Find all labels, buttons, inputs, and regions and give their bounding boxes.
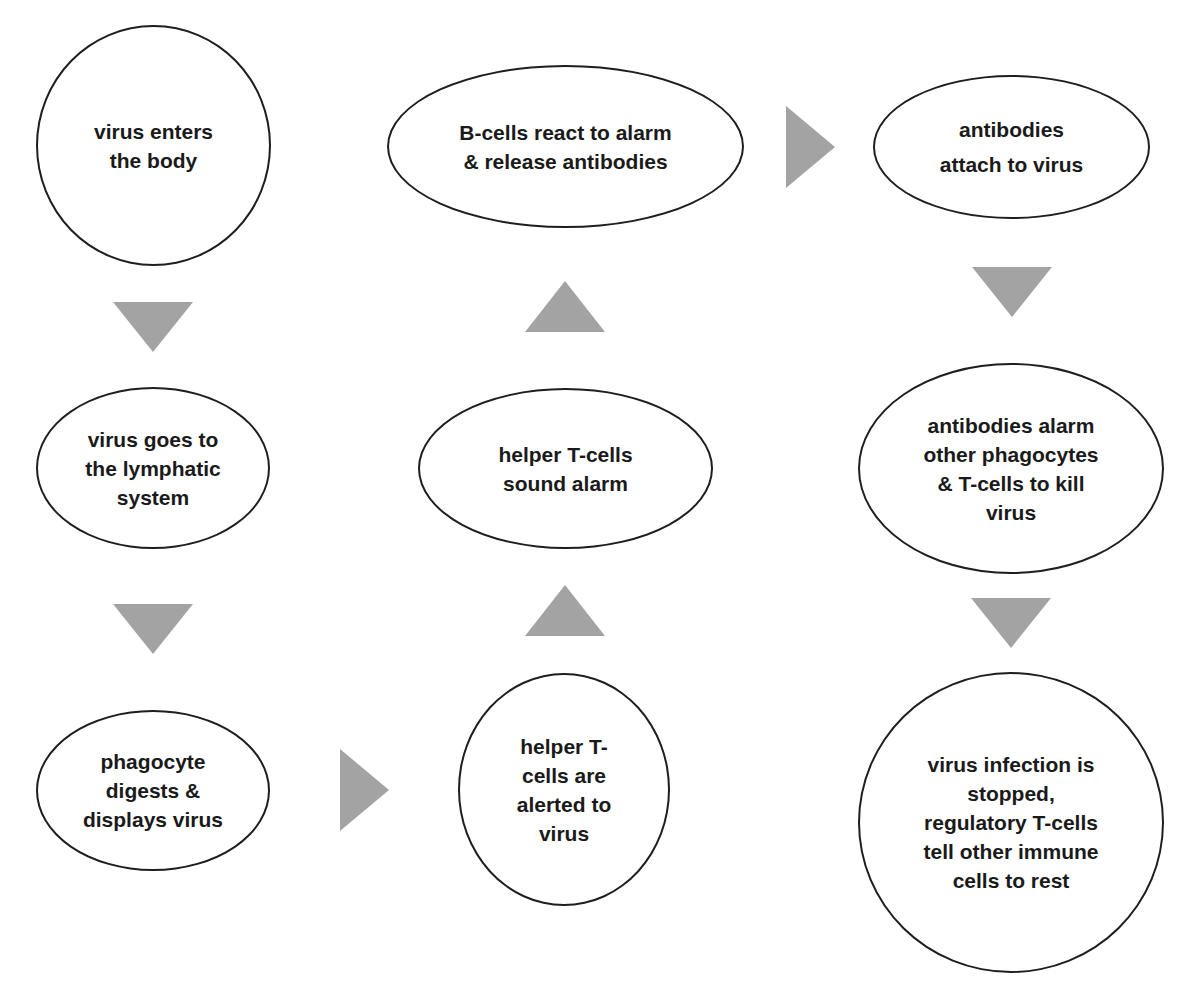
node-label: virus enters the body bbox=[94, 117, 213, 175]
arrow-down-icon bbox=[113, 302, 193, 352]
node-label: antibodies attach to virus bbox=[940, 112, 1084, 182]
node-bcells-release-antibodies: B-cells react to alarm & release antibod… bbox=[387, 65, 744, 228]
node-infection-stopped: virus infection is stopped, regulatory T… bbox=[858, 672, 1164, 973]
node-virus-enters-body: virus enters the body bbox=[36, 25, 271, 266]
node-label: helper T- cells are alerted to virus bbox=[517, 732, 612, 848]
arrow-down-icon bbox=[971, 598, 1051, 648]
arrow-right-icon bbox=[340, 749, 389, 831]
arrow-up-icon bbox=[525, 585, 605, 636]
node-label: virus infection is stopped, regulatory T… bbox=[923, 750, 1098, 895]
node-label: helper T-cells sound alarm bbox=[498, 440, 632, 498]
node-label: B-cells react to alarm & release antibod… bbox=[459, 118, 671, 176]
node-label: virus goes to the lymphatic system bbox=[85, 425, 220, 512]
arrow-down-icon bbox=[972, 267, 1052, 317]
node-phagocyte-digests: phagocyte digests & displays virus bbox=[36, 710, 270, 871]
arrow-up-icon bbox=[525, 281, 605, 332]
node-virus-lymphatic-system: virus goes to the lymphatic system bbox=[36, 387, 270, 549]
node-helper-tcells-sound-alarm: helper T-cells sound alarm bbox=[418, 388, 713, 549]
arrow-down-icon bbox=[113, 604, 193, 654]
node-label: phagocyte digests & displays virus bbox=[83, 747, 223, 834]
node-antibodies-alarm: antibodies alarm other phagocytes & T-ce… bbox=[858, 363, 1164, 574]
arrow-right-icon bbox=[786, 106, 835, 188]
node-antibodies-attach: antibodies attach to virus bbox=[873, 75, 1150, 219]
node-helper-tcells-alerted: helper T- cells are alerted to virus bbox=[458, 673, 670, 906]
node-label: antibodies alarm other phagocytes & T-ce… bbox=[923, 411, 1098, 527]
